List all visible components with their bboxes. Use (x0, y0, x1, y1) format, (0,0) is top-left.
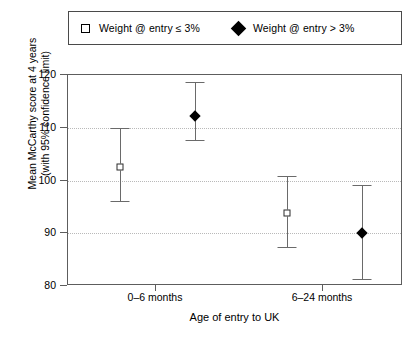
x-axis-group-label: 0–6 months (95, 291, 215, 303)
y-axis-tick (60, 232, 67, 233)
y-axis-tick-label: 100 (16, 174, 56, 186)
y-axis-tick-label: 110 (16, 121, 56, 133)
y-axis-tick (60, 285, 67, 286)
y-axis-tick (60, 74, 67, 75)
data-point-filled-diamond (68, 75, 401, 284)
y-axis-tick-label: 80 (16, 279, 56, 291)
chart-plot-area: Mean McCarthy score at 4 years (with 95%… (0, 0, 414, 337)
y-axis-tick-label: 90 (16, 226, 56, 238)
filled-diamond-marker-icon (356, 228, 367, 239)
error-bar-cap-lower (353, 279, 372, 280)
y-axis-tick (60, 180, 67, 181)
error-bar-cap-upper (353, 185, 372, 186)
x-axis-group-label: 6–24 months (262, 291, 382, 303)
plot-frame (67, 74, 402, 285)
y-axis-title-line-1: Mean McCarthy score at 4 years (26, 38, 38, 190)
x-axis-title: Age of entry to UK (67, 311, 402, 323)
y-axis-tick (60, 127, 67, 128)
y-axis-tick-label: 120 (16, 68, 56, 80)
